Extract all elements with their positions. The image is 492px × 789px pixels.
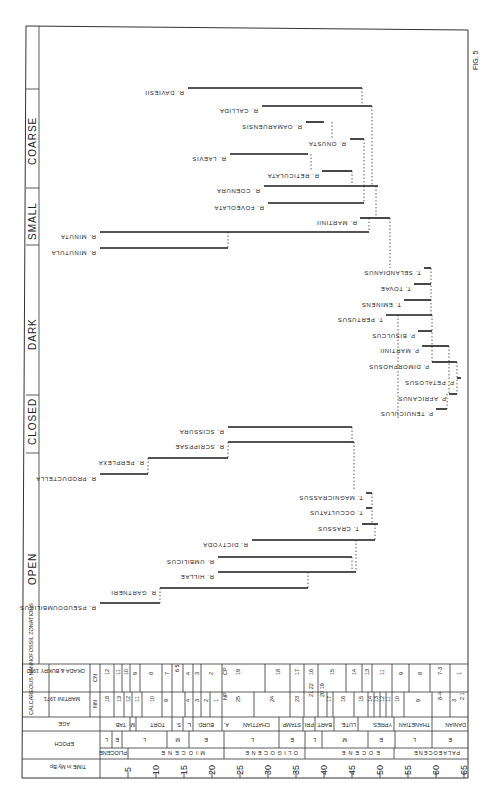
svg-text:LUTE.: LUTE. bbox=[340, 722, 356, 728]
svg-text:OLIGOCENE: OLIGOCENE bbox=[243, 750, 298, 756]
svg-text:15: 15 bbox=[329, 669, 335, 675]
epoch-subdivision-labels: L E L M E L E L M E L E bbox=[105, 737, 452, 743]
label-t-tovae: T. TOVAE bbox=[380, 286, 411, 292]
svg-text:10: 10 bbox=[151, 765, 161, 775]
label-r-scrippsae: R. SCRIPPSAE bbox=[175, 444, 224, 450]
label-t-occultatus: T. OCCULTATUS bbox=[310, 510, 363, 516]
svg-text:60: 60 bbox=[431, 765, 441, 775]
svg-text:3: 3 bbox=[194, 699, 200, 702]
label-r-productella: R. PRODUCTELLA bbox=[36, 476, 96, 482]
epoch-labels: PLIOCENE MIOCENE OLIGOCENE EOCENE PALAEO… bbox=[99, 750, 460, 756]
svg-text:55: 55 bbox=[403, 765, 413, 775]
label-t-pertusus: T. PERTUSUS bbox=[338, 317, 384, 323]
svg-text:11: 11 bbox=[134, 696, 140, 702]
label-r-gartneri: R. GARTNERI bbox=[111, 590, 156, 596]
label-p-petalosus: P. PETALOSUS bbox=[405, 380, 454, 386]
svg-text:S.: S. bbox=[175, 722, 181, 728]
svg-text:4: 4 bbox=[185, 672, 191, 675]
svg-text:8: 8 bbox=[148, 672, 154, 675]
svg-text:DANIAN: DANIAN bbox=[445, 722, 466, 728]
phylogeny-figure: OPEN CLOSED DARK SMALL COARSE FIG. 5 bbox=[0, 0, 492, 789]
martini-label: MARTINI 1971 bbox=[44, 696, 80, 702]
okada-bukry-label: OKADA & BUKRY 1980 bbox=[27, 668, 85, 674]
svg-text:13: 13 bbox=[116, 696, 122, 702]
svg-text:EOCENE: EOCENE bbox=[339, 750, 380, 756]
svg-text:PALAEOCENE: PALAEOCENE bbox=[413, 750, 460, 756]
svg-text:6 5: 6 5 bbox=[174, 664, 180, 672]
category-coarse: COARSE bbox=[27, 117, 38, 165]
nn-label: NN bbox=[92, 700, 98, 708]
label-r-onusta: R. ONUSTA bbox=[308, 141, 346, 147]
epoch-sub-dividers bbox=[112, 731, 432, 748]
svg-text:9: 9 bbox=[163, 699, 169, 702]
label-r-daviesii: R. DAVIESII bbox=[145, 90, 184, 96]
svg-text:50: 50 bbox=[375, 765, 385, 775]
svg-text:16: 16 bbox=[340, 696, 346, 702]
time-axis: 5 10 15 20 25 30 35 40 45 50 55 60 65 bbox=[123, 765, 469, 778]
svg-text:17: 17 bbox=[294, 669, 300, 675]
svg-text:A.: A. bbox=[223, 722, 229, 728]
svg-text:1: 1 bbox=[456, 672, 462, 675]
category-dark: DARK bbox=[27, 318, 38, 350]
label-t-crassus: T. CRASSUS bbox=[318, 526, 359, 532]
svg-text:E: E bbox=[204, 737, 208, 743]
nn-dividers bbox=[114, 692, 450, 717]
svg-text:7: 7 bbox=[164, 672, 170, 675]
svg-text:9: 9 bbox=[132, 672, 138, 675]
svg-text:5: 5 bbox=[123, 767, 133, 772]
svg-text:15: 15 bbox=[358, 696, 364, 702]
svg-text:14: 14 bbox=[351, 669, 357, 675]
svg-text:BURD.: BURD. bbox=[196, 722, 214, 728]
svg-text:E: E bbox=[448, 737, 452, 743]
svg-text:7-3: 7-3 bbox=[437, 667, 443, 675]
svg-text:10: 10 bbox=[123, 669, 129, 675]
cn-label: CN bbox=[92, 674, 98, 682]
svg-text:CP: CP bbox=[222, 667, 228, 675]
svg-text:10: 10 bbox=[394, 696, 400, 702]
svg-text:8: 8 bbox=[417, 672, 423, 675]
category-open: OPEN bbox=[27, 553, 38, 585]
label-r-reticulata: R. RETICULATA bbox=[267, 173, 319, 179]
svg-text:25: 25 bbox=[235, 765, 245, 775]
svg-text:NP: NP bbox=[222, 692, 228, 700]
svg-text:45: 45 bbox=[347, 765, 357, 775]
label-r-hillae: R. HILLAE bbox=[180, 574, 214, 580]
svg-text:23: 23 bbox=[294, 696, 300, 702]
svg-text:24: 24 bbox=[269, 696, 275, 702]
svg-text:L: L bbox=[251, 737, 254, 743]
svg-text:CHATTIAN: CHATTIAN bbox=[243, 722, 270, 728]
svg-text:PLIOCENE: PLIOCENE bbox=[99, 750, 127, 756]
svg-text:13: 13 bbox=[364, 669, 370, 675]
cn-dividers bbox=[114, 664, 450, 692]
label-r-perplexa: R. PERPLEXA bbox=[98, 460, 144, 466]
svg-text:THANETIAN: THANETIAN bbox=[399, 722, 430, 728]
svg-text:2: 2 bbox=[203, 699, 209, 702]
svg-text:1: 1 bbox=[213, 699, 219, 702]
svg-text:19: 19 bbox=[235, 669, 241, 675]
label-r-foveolata: R. FOVEOLATA bbox=[214, 205, 264, 211]
svg-text:20 19: 20 19 bbox=[319, 683, 325, 697]
svg-text:E: E bbox=[115, 737, 119, 743]
age-labels: TAB. M TORT. S. L. BURD. A. CHATTIAN STA… bbox=[114, 722, 466, 728]
label-r-minutula: R. MINUTULA bbox=[51, 250, 96, 256]
svg-text:9: 9 bbox=[398, 672, 404, 675]
category-small: SMALL bbox=[27, 202, 38, 240]
svg-text:M: M bbox=[175, 737, 180, 743]
label-t-selandianus: T. SELANDIANUS bbox=[364, 270, 421, 276]
label-r-umbilicus: R. UMBILICUS bbox=[166, 559, 214, 565]
svg-text:20: 20 bbox=[207, 765, 217, 775]
age-label: AGE bbox=[58, 721, 70, 727]
label-r-dictyoda: R. DICTYODA bbox=[203, 542, 248, 548]
svg-text:11: 11 bbox=[379, 669, 385, 675]
svg-text:11: 11 bbox=[385, 696, 391, 702]
svg-text:25: 25 bbox=[235, 696, 241, 702]
label-t-eminens: T. EMINENS bbox=[361, 302, 401, 308]
svg-text:M: M bbox=[130, 722, 135, 728]
svg-text:9: 9 bbox=[415, 699, 421, 702]
svg-text:L: L bbox=[413, 737, 416, 743]
svg-text:15: 15 bbox=[179, 765, 189, 775]
svg-text:E: E bbox=[379, 737, 383, 743]
svg-text:3: 3 bbox=[451, 699, 457, 702]
label-p-bisulcus: P. BISULCUS bbox=[372, 333, 415, 339]
label-r-martinii: R. MARTINII bbox=[317, 220, 358, 226]
